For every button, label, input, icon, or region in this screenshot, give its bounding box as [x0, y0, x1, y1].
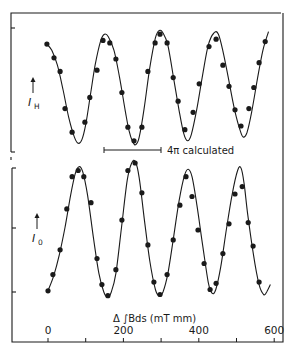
- chart-canvas: 0200400600 I H I 0 4π calculated Δ ∫Bds …: [0, 0, 292, 355]
- bottom-data-point: [257, 280, 262, 285]
- top-data-point: [94, 68, 99, 73]
- top-data-point: [82, 120, 87, 125]
- top-data-point: [51, 55, 56, 60]
- bottom-y-label: I 0: [32, 213, 43, 247]
- bottom-data-point: [177, 203, 182, 208]
- top-data-point: [176, 99, 181, 104]
- bottom-data-point: [76, 168, 81, 173]
- bottom-data-point: [139, 190, 144, 195]
- top-data-point: [182, 127, 187, 132]
- top-data-point: [206, 44, 211, 49]
- top-y-label-main: I: [28, 96, 31, 109]
- x-tick-label: 400: [189, 324, 209, 336]
- bottom-panel-frame: [12, 13, 283, 342]
- bottom-data-point: [251, 244, 256, 249]
- top-data-point: [62, 106, 67, 111]
- top-data-point: [197, 81, 202, 86]
- top-data-point: [171, 75, 176, 80]
- chart-frames: [11, 13, 283, 342]
- top-y-label: I H: [28, 77, 40, 111]
- top-data-point: [238, 123, 243, 128]
- bottom-data-point: [151, 280, 156, 285]
- top-data-point: [165, 40, 170, 45]
- top-data-point: [100, 38, 105, 43]
- bottom-data-point: [195, 227, 200, 232]
- bottom-data-point: [240, 184, 245, 189]
- bottom-data-point: [105, 293, 110, 298]
- bottom-data-point: [99, 282, 104, 287]
- scale-bar-annotation: [104, 147, 161, 153]
- top-data-point: [220, 63, 225, 68]
- top-data-point: [58, 69, 63, 74]
- top-data-point: [251, 85, 256, 90]
- top-data-point: [153, 40, 158, 45]
- bottom-data-point: [220, 251, 225, 256]
- bottom-panel-plot: [45, 160, 270, 298]
- top-data-point: [113, 56, 118, 61]
- top-data-point: [257, 60, 262, 65]
- x-tick-label: 200: [113, 324, 133, 336]
- top-data-point: [131, 138, 136, 143]
- arrowhead-icon: [35, 213, 40, 218]
- bottom-data-point: [119, 218, 124, 223]
- top-data-point: [246, 106, 251, 111]
- top-data-point: [87, 95, 92, 100]
- bottom-data-point: [145, 242, 150, 247]
- bottom-data-point: [165, 272, 170, 277]
- top-data-point: [107, 40, 112, 45]
- top-data-point: [157, 32, 162, 37]
- bottom-data-point: [50, 272, 55, 277]
- chart-figure: 0200400600 I H I 0 4π calculated Δ ∫Bds …: [0, 0, 292, 355]
- top-data-point: [70, 130, 75, 135]
- bottom-data-point: [88, 200, 93, 205]
- bottom-data-point: [70, 174, 75, 179]
- top-data-point: [263, 39, 268, 44]
- top-data-point: [226, 84, 231, 89]
- bottom-data-point: [125, 168, 130, 173]
- bottom-data-point: [45, 288, 50, 293]
- bottom-data-point: [171, 237, 176, 242]
- bottom-data-point: [133, 160, 138, 165]
- bottom-fit-curve: [48, 160, 270, 297]
- bottom-data-point: [157, 292, 162, 297]
- x-axis-label: Δ ∫Bds (mT mm): [113, 313, 196, 324]
- x-tick-label: 600: [264, 324, 284, 336]
- bottom-y-label-sub: 0: [38, 238, 43, 247]
- bottom-data-point: [81, 174, 86, 179]
- bottom-data-point: [214, 281, 219, 286]
- bottom-data-point: [64, 206, 69, 211]
- bottom-data-point: [226, 221, 231, 226]
- bottom-y-label-main: I: [32, 232, 35, 245]
- top-data-point: [44, 42, 49, 47]
- x-tick-label: 0: [45, 324, 52, 336]
- top-data-point: [232, 107, 237, 112]
- top-data-point: [119, 90, 124, 95]
- top-data-point: [214, 37, 219, 42]
- bottom-data-point: [94, 256, 99, 261]
- bottom-data-point: [58, 247, 63, 252]
- bottom-data-point: [246, 220, 251, 225]
- bottom-data-point: [208, 287, 213, 292]
- top-panel-plot: [44, 30, 268, 145]
- bottom-data-point: [189, 194, 194, 199]
- bottom-data-point: [202, 261, 207, 266]
- top-data-point: [145, 69, 150, 74]
- x-axis-ticks: [48, 338, 274, 342]
- x-axis-tick-labels: 0200400600: [45, 324, 285, 336]
- top-data-point: [139, 125, 144, 130]
- top-fit-curve: [47, 30, 269, 145]
- bottom-data-point: [113, 267, 118, 272]
- bottom-data-point: [183, 174, 188, 179]
- top-data-point: [125, 125, 130, 130]
- top-y-label-sub: H: [34, 102, 40, 111]
- scale-bar-label: 4π calculated: [167, 145, 234, 156]
- arrowhead-icon: [31, 77, 36, 82]
- top-data-point: [191, 110, 196, 115]
- bottom-data-point: [232, 191, 237, 196]
